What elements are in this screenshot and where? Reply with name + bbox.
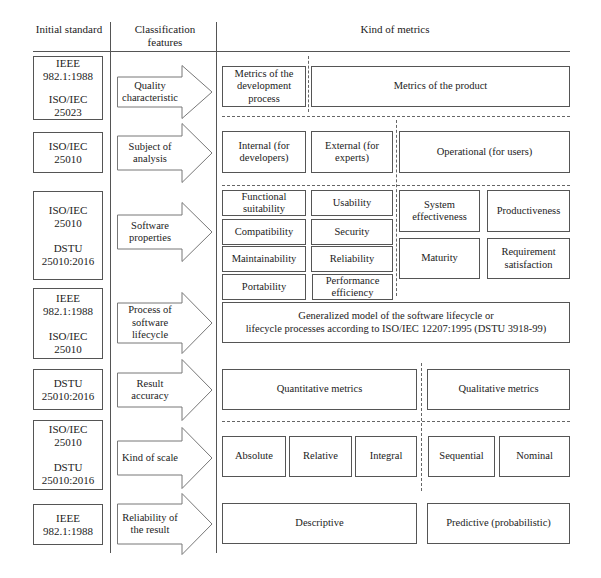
metric-box-nominal: Nominal: [499, 436, 570, 477]
standard-label: 25023: [54, 106, 82, 119]
standard-label: DSTU: [54, 242, 83, 255]
standard-box-row-reliability: IEEE 982.1:1988: [33, 504, 103, 545]
standard-label: 982.1:1988: [43, 305, 93, 318]
arrow-software-properties: Software properties: [117, 202, 213, 262]
standard-label: ISO/IEC: [49, 330, 88, 343]
dashed-separator: [222, 421, 570, 422]
metric-box-requirement-satisfaction: Requirement satisfaction: [487, 238, 570, 279]
metric-box-compatibility: Compatibility: [222, 219, 306, 245]
standard-label: 25010: [54, 343, 82, 356]
column-divider-2: [216, 22, 217, 553]
standard-label: DSTU: [54, 377, 83, 390]
standard-label: IEEE: [56, 512, 80, 525]
arrow-kind-of-scale: Kind of scale: [117, 427, 213, 489]
metric-box-absolute: Absolute: [222, 436, 286, 477]
feature-label: Subject of analysis: [117, 136, 183, 170]
standard-label: ISO/IEC: [49, 423, 88, 436]
dashed-separator: [308, 56, 309, 112]
lifecycle-line-1: Generalized model of the software lifecy…: [298, 310, 493, 323]
metric-box-productiveness: Productiveness: [487, 190, 570, 232]
metric-box-development-process: Metrics of the development process: [222, 66, 306, 107]
header-classification-features: Classification features: [120, 23, 210, 49]
metric-box-sequential: Sequential: [428, 436, 495, 477]
metric-box-quantitative: Quantitative metrics: [222, 369, 417, 410]
standard-box-row-accuracy: DSTU 25010:2016: [33, 369, 103, 410]
column-divider-1: [110, 22, 111, 553]
standard-label: 25010: [54, 436, 82, 449]
arrow-subject-of-analysis: Subject of analysis: [117, 123, 213, 183]
standard-label: 25010:2016: [42, 474, 95, 487]
dashed-separator: [222, 185, 570, 186]
arrow-result-accuracy: Result accuracy: [117, 359, 213, 421]
feature-label: Kind of scale: [117, 441, 183, 475]
metric-box-predictive: Predictive (probabilistic): [427, 503, 570, 544]
arrow-process-of-software-lifecycle: Process of software lifecycle: [117, 292, 213, 354]
metric-box-internal: Internal (for developers): [222, 131, 306, 173]
standard-label: IEEE: [56, 292, 80, 305]
metric-box-system-effectiveness: System effectiveness: [399, 190, 480, 232]
lifecycle-line-2: lifecycle processes according to ISO/IEC…: [246, 323, 547, 336]
metric-box-lifecycle-model: Generalized model of the software lifecy…: [222, 302, 570, 343]
feature-label: Result accuracy: [117, 373, 183, 407]
dashed-separator: [421, 363, 422, 491]
metric-box-maintainability: Maintainability: [222, 246, 306, 272]
metric-box-security: Security: [311, 219, 393, 245]
metric-box-operational: Operational (for users): [399, 131, 570, 173]
metric-box-qualitative: Qualitative metrics: [427, 369, 570, 410]
standard-label: 982.1:1988: [43, 525, 93, 538]
metric-box-maturity: Maturity: [399, 238, 480, 279]
standard-box-row-lifecycle: IEEE 982.1:1988 ISO/IEC 25010: [33, 288, 103, 359]
dashed-separator: [222, 116, 570, 117]
standard-box-row-scale: ISO/IEC 25010 DSTU 25010:2016: [33, 420, 103, 490]
metric-box-performance-efficiency: Performance efficiency: [312, 274, 393, 300]
standard-box-row-quality: IEEE 982.1:1988 ISO/IEC 25023: [33, 56, 103, 120]
metric-box-portability: Portability: [222, 274, 306, 300]
header-divider: [33, 51, 570, 52]
standard-label: 25010:2016: [42, 255, 95, 268]
metric-box-reliability: Reliability: [311, 246, 393, 272]
arrow-reliability-of-result: Reliability of the result: [117, 493, 213, 555]
standard-label: 25010: [54, 217, 82, 230]
feature-label: Quality characteristic: [117, 77, 183, 107]
standard-label: 25010: [54, 153, 82, 166]
metric-box-functional-suitability: Functional suitability: [222, 190, 306, 216]
standard-label: 25010:2016: [42, 390, 95, 403]
feature-label: Process of software lifecycle: [117, 303, 183, 343]
standard-box-row-properties: ISO/IEC 25010 DSTU 25010:2016: [33, 191, 103, 280]
metric-box-relative: Relative: [289, 436, 352, 477]
standard-label: ISO/IEC: [49, 140, 88, 153]
arrow-quality-characteristic: Quality characteristic: [117, 65, 213, 119]
metric-box-descriptive: Descriptive: [222, 503, 417, 544]
metric-box-integral: Integral: [355, 436, 417, 477]
standard-label: DSTU: [54, 461, 83, 474]
standard-label: ISO/IEC: [49, 204, 88, 217]
standard-label: IEEE: [56, 57, 80, 70]
feature-label: Reliability of the result: [117, 504, 183, 544]
dashed-separator: [396, 120, 397, 296]
header-initial-standard: Initial standard: [30, 23, 108, 36]
feature-label: Software properties: [117, 215, 183, 249]
header-kind-of-metrics: Kind of metrics: [220, 23, 570, 36]
metric-box-external: External (for experts): [311, 131, 393, 173]
standard-label: 982.1:1988: [43, 70, 93, 83]
standard-label: ISO/IEC: [49, 93, 88, 106]
standard-box-row-subject: ISO/IEC 25010: [33, 132, 103, 173]
metric-box-product: Metrics of the product: [311, 66, 570, 107]
metric-box-usability: Usability: [311, 190, 393, 216]
